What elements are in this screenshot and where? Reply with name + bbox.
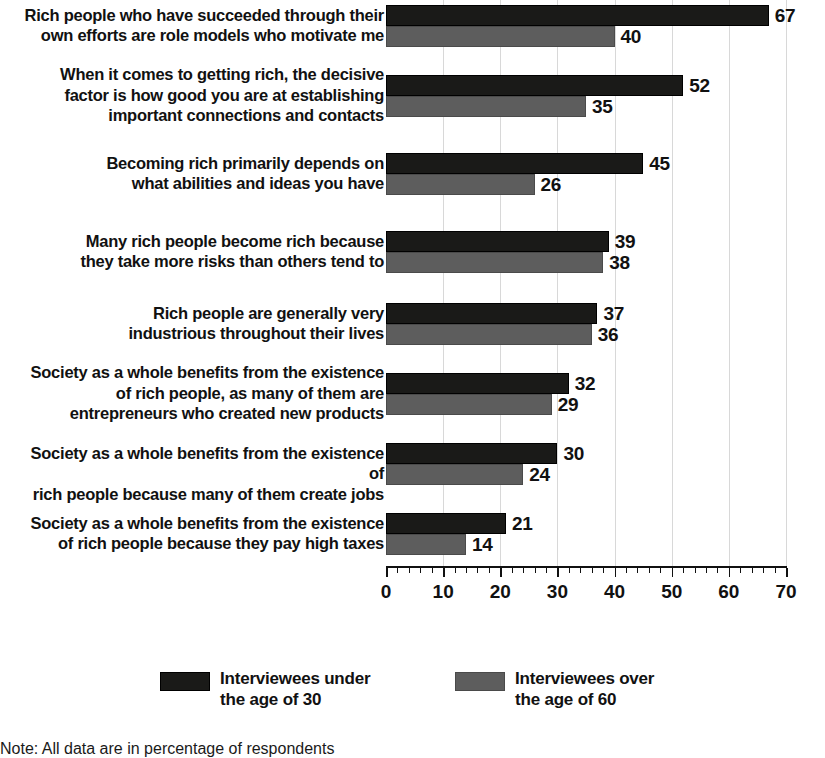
legend-swatch-over-60 bbox=[455, 672, 505, 691]
category-label: Many rich people become rich becausethey… bbox=[12, 231, 384, 272]
category-label-line: industrious throughout their lives bbox=[12, 323, 384, 344]
category-label-line: Society as a whole benefits from the exi… bbox=[12, 443, 384, 484]
bar-value-label: 40 bbox=[621, 26, 642, 47]
category-label-line: they take more risks than others tend to bbox=[12, 251, 384, 272]
x-tick-minor bbox=[740, 568, 741, 573]
category-label: Society as a whole benefits from the exi… bbox=[12, 362, 384, 424]
bar-gray bbox=[386, 464, 523, 485]
bar-group: 3024 bbox=[386, 443, 786, 485]
x-tick-minor bbox=[763, 568, 764, 573]
bar-value-label: 38 bbox=[609, 252, 630, 273]
category-label-line: important connections and contacts bbox=[12, 105, 384, 126]
x-tick-minor bbox=[455, 568, 456, 573]
category-label: Becoming rich primarily depends onwhat a… bbox=[12, 153, 384, 194]
x-tick-major bbox=[443, 568, 445, 577]
x-tick-label: 40 bbox=[604, 581, 625, 603]
category-label-line: what abilities and ideas you have bbox=[12, 173, 384, 194]
x-tick-minor bbox=[569, 568, 570, 573]
x-tick-minor bbox=[420, 568, 421, 573]
x-tick-minor bbox=[695, 568, 696, 573]
gridline bbox=[786, 0, 787, 568]
bar-value-label: 52 bbox=[689, 75, 710, 96]
category-label: When it comes to getting rich, the decis… bbox=[12, 64, 384, 126]
x-tick-minor bbox=[592, 568, 593, 573]
x-tick-minor bbox=[546, 568, 547, 573]
legend-label: Interviewees over the age of 60 bbox=[515, 668, 654, 710]
bar-value-label: 24 bbox=[529, 464, 550, 485]
bar-value-label: 29 bbox=[558, 394, 579, 415]
x-tick-minor bbox=[637, 568, 638, 573]
category-label-line: Many rich people become rich because bbox=[12, 231, 384, 252]
x-tick-major bbox=[500, 568, 502, 577]
x-tick-major bbox=[557, 568, 559, 577]
x-tick-minor bbox=[512, 568, 513, 573]
category-label-line: factor is how good you are at establishi… bbox=[12, 85, 384, 106]
x-tick-minor bbox=[477, 568, 478, 573]
chart-note: Note: All data are in percentage of resp… bbox=[0, 739, 334, 758]
bar-gray bbox=[386, 96, 586, 117]
x-axis-line bbox=[386, 566, 787, 568]
bar-value-label: 32 bbox=[575, 373, 596, 394]
bar-value-label: 26 bbox=[541, 174, 562, 195]
bar-value-label: 21 bbox=[512, 513, 533, 534]
x-tick-label: 10 bbox=[433, 581, 454, 603]
category-label-line: own efforts are role models who motivate… bbox=[12, 25, 384, 46]
category-label: Rich people who have succeeded through t… bbox=[12, 5, 384, 46]
category-label-line: Society as a whole benefits from the exi… bbox=[12, 513, 384, 534]
bar-gray bbox=[386, 26, 615, 47]
bar-gray bbox=[386, 534, 466, 555]
bar-value-label: 14 bbox=[472, 534, 493, 555]
bar-dark bbox=[386, 443, 557, 464]
x-tick-minor bbox=[432, 568, 433, 573]
plot-area: 67405235452639383736322930242114 bbox=[386, 0, 786, 568]
category-label: Rich people are generally veryindustriou… bbox=[12, 303, 384, 344]
bar-value-label: 45 bbox=[649, 153, 670, 174]
x-tick-minor bbox=[489, 568, 490, 573]
x-tick-minor bbox=[752, 568, 753, 573]
x-tick-major bbox=[615, 568, 617, 577]
bar-value-label: 30 bbox=[563, 443, 584, 464]
bar-group: 2114 bbox=[386, 513, 786, 555]
x-tick-minor bbox=[409, 568, 410, 573]
x-tick-minor bbox=[603, 568, 604, 573]
bar-group: 6740 bbox=[386, 5, 786, 47]
bar-gray bbox=[386, 252, 603, 273]
legend-item[interactable]: Interviewees under the age of 30 bbox=[160, 668, 370, 710]
bar-value-label: 35 bbox=[592, 96, 613, 117]
x-tick-minor bbox=[626, 568, 627, 573]
bar-dark bbox=[386, 5, 769, 26]
category-label-line: Rich people who have succeeded through t… bbox=[12, 5, 384, 26]
bar-group: 5235 bbox=[386, 75, 786, 117]
bar-value-label: 67 bbox=[775, 5, 796, 26]
bar-gray bbox=[386, 174, 535, 195]
legend-label: Interviewees under the age of 30 bbox=[220, 668, 370, 710]
category-label-line: Rich people are generally very bbox=[12, 303, 384, 324]
x-tick-major bbox=[729, 568, 731, 577]
x-tick-minor bbox=[523, 568, 524, 573]
x-tick-minor bbox=[397, 568, 398, 573]
x-tick-label: 50 bbox=[661, 581, 682, 603]
bar-group: 3938 bbox=[386, 231, 786, 273]
category-label-line: Society as a whole benefits from the exi… bbox=[12, 362, 384, 383]
bar-group: 3736 bbox=[386, 303, 786, 345]
x-tick-label: 0 bbox=[381, 581, 392, 603]
bar-dark bbox=[386, 303, 597, 324]
category-label: Society as a whole benefits from the exi… bbox=[12, 443, 384, 505]
category-label-line: When it comes to getting rich, the decis… bbox=[12, 64, 384, 85]
bar-gray bbox=[386, 324, 592, 345]
bar-dark bbox=[386, 373, 569, 394]
x-tick-minor bbox=[466, 568, 467, 573]
bar-dark bbox=[386, 231, 609, 252]
bar-gray bbox=[386, 394, 552, 415]
x-tick-major bbox=[672, 568, 674, 577]
legend-swatch-under-30 bbox=[160, 672, 210, 691]
bar-dark bbox=[386, 75, 683, 96]
x-tick-minor bbox=[580, 568, 581, 573]
bar-value-label: 36 bbox=[598, 324, 619, 345]
x-tick-minor bbox=[535, 568, 536, 573]
legend-item[interactable]: Interviewees over the age of 60 bbox=[455, 668, 654, 710]
x-tick-label: 20 bbox=[490, 581, 511, 603]
category-label-line: rich people because many of them create … bbox=[12, 484, 384, 505]
category-label: Society as a whole benefits from the exi… bbox=[12, 513, 384, 554]
chart-legend: Interviewees under the age of 30Intervie… bbox=[0, 668, 825, 724]
